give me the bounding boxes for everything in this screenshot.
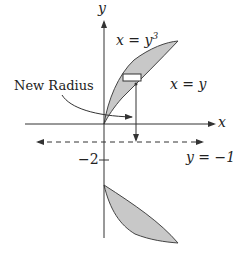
curve-label-cubic: x = y3 bbox=[116, 32, 158, 48]
x-axis-arrow bbox=[208, 121, 216, 127]
tick-minus2-label: −2 bbox=[78, 151, 99, 167]
lower-region bbox=[104, 185, 178, 243]
upper-region bbox=[104, 41, 178, 124]
new-radius-label: New Radius bbox=[14, 78, 94, 93]
washer-rectangle bbox=[123, 74, 141, 81]
y-axis-arrow bbox=[101, 20, 107, 28]
diagram-canvas: y x x = y3 x = y New Radius −2 y = −1 bbox=[0, 0, 235, 258]
curve-label-linear: x = y bbox=[170, 76, 206, 92]
axis-of-rotation-label: y = −1 bbox=[186, 149, 235, 165]
x-axis-label: x bbox=[218, 114, 226, 130]
y-axis-label: y bbox=[98, 0, 106, 16]
